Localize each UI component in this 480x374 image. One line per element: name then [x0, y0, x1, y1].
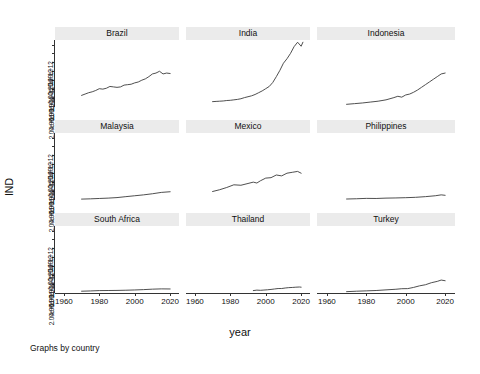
- y-axis-tick: [52, 45, 55, 46]
- y-axis-tick: [52, 239, 55, 240]
- x-axis-tick: [445, 293, 446, 296]
- plot-area: [55, 40, 179, 107]
- plot-area: [317, 133, 455, 200]
- panel-title: Mexico: [186, 120, 310, 133]
- x-axis-spine: [55, 293, 179, 294]
- panel-philippines: Philippines: [317, 120, 455, 200]
- plot-area: [186, 133, 310, 200]
- panel-title: Turkey: [317, 213, 455, 226]
- plot-area: [55, 226, 179, 293]
- series-line: [347, 195, 446, 199]
- x-axis-tick: [135, 293, 136, 296]
- x-tick-label: 2000: [126, 297, 144, 306]
- x-tick-label: 1980: [357, 297, 375, 306]
- panel-mexico: Mexico: [186, 120, 310, 200]
- figure-note: Graphs by country: [30, 343, 99, 353]
- x-axis-tick: [301, 293, 302, 296]
- series-line: [347, 280, 446, 292]
- x-tick-label: 1980: [90, 297, 108, 306]
- x-axis-tick: [230, 293, 231, 296]
- y-tick-label: 1.40e+12: [48, 154, 55, 180]
- panel-malaysia: Malaysia: [55, 120, 179, 200]
- plot-area: [317, 226, 455, 293]
- panel-indonesia: Indonesia: [317, 27, 455, 107]
- x-axis-tick: [327, 293, 328, 296]
- x-axis-tick: [64, 293, 65, 296]
- panel-brazil: Brazil: [55, 27, 179, 107]
- panel-title: Indonesia: [317, 27, 455, 40]
- plot-area: [317, 40, 455, 107]
- plot-area: [186, 226, 310, 293]
- x-tick-label: 2020: [292, 297, 310, 306]
- x-axis-tick: [99, 293, 100, 296]
- panel-grid: BrazilIndiaIndonesiaMalaysiaMexicoPhilip…: [0, 0, 480, 374]
- y-axis-tick: [52, 138, 55, 139]
- y-axis-tick: [52, 53, 55, 54]
- y-tick-label: 1.40e+12: [48, 61, 55, 87]
- series-line: [82, 289, 171, 291]
- panel-turkey: Turkey: [317, 213, 455, 293]
- x-tick-label: 2000: [257, 297, 275, 306]
- x-axis-tick: [195, 293, 196, 296]
- y-axis-row-1: 2.00e+114.00e+116.00e+118.00e+111.00e+12…: [25, 133, 55, 200]
- y-tick-label-stack: 2.00e+114.00e+116.00e+118.00e+111.00e+12…: [33, 40, 51, 107]
- y-axis-tick: [52, 231, 55, 232]
- x-axis-col-2: 1960198020002020: [317, 293, 455, 309]
- x-tick-label: 1960: [186, 297, 204, 306]
- x-axis-col-1: 1960198020002020: [186, 293, 310, 309]
- panel-title: Thailand: [186, 213, 310, 226]
- y-axis-tick: [52, 146, 55, 147]
- panel-title: Malaysia: [55, 120, 179, 133]
- small-multiples-figure: IND BrazilIndiaIndonesiaMalaysiaMexicoPh…: [0, 0, 480, 374]
- x-axis-spine: [317, 293, 455, 294]
- x-tick-label: 2020: [436, 297, 454, 306]
- x-axis-title: year: [0, 326, 480, 338]
- panel-title: South Africa: [55, 213, 179, 226]
- plot-area: [55, 133, 179, 200]
- panel-title: Brazil: [55, 27, 179, 40]
- x-tick-label: 1980: [221, 297, 239, 306]
- series-line: [253, 287, 301, 291]
- x-tick-label: 2020: [161, 297, 179, 306]
- x-tick-label: 2000: [397, 297, 415, 306]
- y-tick-label-stack: 2.00e+114.00e+116.00e+118.00e+111.00e+12…: [33, 226, 51, 293]
- x-axis-spine: [186, 293, 310, 294]
- x-axis-tick: [406, 293, 407, 296]
- panel-india: India: [186, 27, 310, 107]
- series-line: [82, 71, 171, 95]
- series-line: [347, 73, 446, 104]
- series-line: [213, 171, 302, 191]
- panel-south-africa: South Africa: [55, 213, 179, 293]
- series-line: [213, 42, 303, 101]
- y-tick-label: 1.40e+12: [48, 247, 55, 273]
- y-axis-row-0: 2.00e+114.00e+116.00e+118.00e+111.00e+12…: [25, 40, 55, 107]
- x-axis-tick: [366, 293, 367, 296]
- x-axis-tick: [170, 293, 171, 296]
- series-line: [82, 192, 171, 199]
- x-axis-tick: [266, 293, 267, 296]
- panel-title: Philippines: [317, 120, 455, 133]
- panel-title: India: [186, 27, 310, 40]
- x-tick-label: 1960: [318, 297, 336, 306]
- panel-thailand: Thailand: [186, 213, 310, 293]
- x-tick-label: 1960: [55, 297, 73, 306]
- plot-area: [186, 40, 310, 107]
- y-axis-row-2: 2.00e+114.00e+116.00e+118.00e+111.00e+12…: [25, 226, 55, 293]
- y-tick-label-stack: 2.00e+114.00e+116.00e+118.00e+111.00e+12…: [33, 133, 51, 200]
- x-axis-col-0: 1960198020002020: [55, 293, 179, 309]
